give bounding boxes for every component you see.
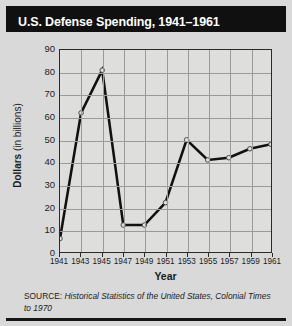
- y-tick-label: 50: [44, 135, 55, 145]
- source-label: SOURCE:: [24, 291, 65, 301]
- plot-wrapper: [59, 49, 272, 253]
- data-point-marker: [269, 142, 272, 147]
- gridline-horizontal: [60, 163, 271, 164]
- x-axis-title: Year: [59, 270, 272, 282]
- gridline-vertical: [103, 50, 104, 252]
- x-tick-label: 1949: [135, 258, 153, 266]
- y-tick-label: 20: [44, 203, 55, 213]
- x-tick-label: 1953: [178, 258, 196, 266]
- gridline-vertical: [145, 50, 146, 252]
- gridline-vertical: [188, 50, 189, 252]
- gridline-vertical: [252, 50, 253, 252]
- gridline-horizontal: [60, 231, 271, 232]
- x-tick-label: 1959: [242, 258, 260, 266]
- title-banner: U.S. Defense Spending, 1941–1961: [6, 6, 286, 32]
- x-tick-label: 1961: [263, 258, 281, 266]
- y-axis-title: Dollars (in billions): [12, 71, 23, 221]
- y-tick-label: 90: [44, 44, 55, 54]
- gridline-horizontal: [60, 118, 271, 119]
- y-tick-label: 30: [44, 180, 55, 190]
- gridline-vertical: [209, 50, 210, 252]
- gridline-vertical: [124, 50, 125, 252]
- bottom-rule: [6, 318, 286, 321]
- x-tick-label: 1951: [156, 258, 174, 266]
- gridline-horizontal: [60, 141, 271, 142]
- x-tick-label: 1955: [199, 258, 217, 266]
- y-tick-label: 10: [44, 226, 55, 236]
- y-axis-title-rest: (in billions): [12, 103, 23, 154]
- gridline-horizontal: [60, 95, 271, 96]
- gridline-vertical: [230, 50, 231, 252]
- x-tick-label: 1941: [50, 258, 68, 266]
- gridline-vertical: [167, 50, 168, 252]
- data-point-marker: [59, 236, 62, 241]
- y-tick-label: 80: [44, 67, 55, 77]
- y-tick-label: 70: [44, 90, 55, 100]
- series-line-chart: [60, 50, 271, 252]
- gridline-horizontal: [60, 186, 271, 187]
- y-axis-tick-labels: 0102030405060708090: [33, 49, 55, 253]
- x-tick-label: 1947: [114, 258, 132, 266]
- x-tick-label: 1957: [220, 258, 238, 266]
- gridline-vertical: [81, 50, 82, 252]
- page-title: U.S. Defense Spending, 1941–1961: [18, 15, 220, 29]
- source-note: SOURCE: Historical Statistics of the Uni…: [24, 290, 274, 314]
- gridline-horizontal: [60, 209, 271, 210]
- y-tick-label: 60: [44, 112, 55, 122]
- y-tick-label: 40: [44, 158, 55, 168]
- y-axis-title-bold: Dollars: [12, 154, 23, 188]
- plot-area: [59, 49, 272, 253]
- x-tick-label: 1945: [92, 258, 110, 266]
- x-tick-label: 1943: [71, 258, 89, 266]
- gridline-horizontal: [60, 73, 271, 74]
- chart-figure: U.S. Defense Spending, 1941–1961 Dollars…: [0, 0, 292, 326]
